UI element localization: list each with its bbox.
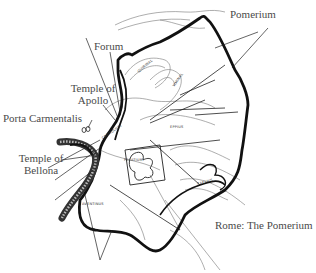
- label-temple-of-apollo-line1: Temple of: [68, 82, 118, 94]
- hill-label-aventine: AVENTINUS: [82, 202, 104, 206]
- label-temple-of-bellona-line1: Temple of: [16, 152, 66, 164]
- pomerium-map: [0, 0, 316, 273]
- gate-markers: [82, 127, 90, 133]
- label-temple-of-bellona-line2: Bellona: [16, 164, 66, 176]
- hill-label-palatine: PALATIUM: [124, 158, 143, 162]
- hill-label-esquiline: EPPIUS: [170, 125, 183, 129]
- label-pomerium: Pomerium: [230, 8, 276, 20]
- label-temple-of-apollo: Temple of Apollo: [68, 82, 118, 106]
- street-lines: [110, 65, 238, 230]
- palatine-block: [125, 145, 165, 185]
- label-temple-of-bellona: Temple of Bellona: [16, 152, 66, 176]
- label-forum: Forum: [94, 40, 123, 52]
- label-porta-carmentalis: Porta Carmentalis: [3, 112, 82, 124]
- map-caption: Rome: The Pomerium: [215, 219, 313, 231]
- label-temple-of-apollo-line2: Apollo: [68, 94, 118, 106]
